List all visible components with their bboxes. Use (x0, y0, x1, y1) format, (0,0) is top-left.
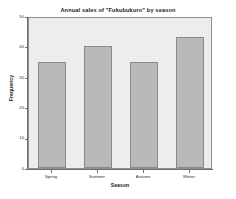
y-tick-mark (25, 169, 28, 170)
x-tick-mark (189, 170, 190, 173)
y-tick-label: 30 (19, 75, 24, 81)
y-tick: 10 (0, 139, 28, 140)
x-tick-mark (51, 170, 52, 173)
x-axis-title: Season (28, 182, 212, 188)
y-tick-label: 20 (19, 105, 24, 111)
x-tick-label: Winter (169, 174, 209, 179)
bar-autumn (130, 62, 159, 168)
plot-area (29, 18, 211, 168)
y-tick: 0 (0, 169, 28, 170)
y-tick-label: 0 (22, 166, 24, 172)
y-axis-line (27, 17, 28, 170)
x-tick-label: Autumn (123, 174, 163, 179)
y-tick-label: 50 (19, 14, 24, 20)
plot-panel (28, 17, 212, 169)
y-tick-mark (25, 139, 28, 140)
y-tick: 50 (0, 17, 28, 18)
y-tick-label: 10 (19, 135, 24, 141)
x-tick-mark (97, 170, 98, 173)
bar-summer (84, 46, 113, 168)
y-tick-mark (25, 17, 28, 18)
y-tick-mark (25, 108, 28, 109)
chart-title: Annual sales of "Fukubukuro" by season (0, 7, 236, 13)
x-tick-label: Spring (31, 174, 71, 179)
y-axis-title: Frequency (8, 43, 14, 133)
bar-winter (176, 37, 205, 168)
x-tick-label: Summer (77, 174, 117, 179)
bar-spring (38, 62, 67, 168)
x-axis-line (27, 169, 213, 170)
y-tick: 40 (0, 47, 28, 48)
y-tick-mark (25, 78, 28, 79)
bar-chart-figure: Annual sales of "Fukubukuro" by season 0… (0, 0, 236, 199)
x-tick-mark (143, 170, 144, 173)
y-tick: 30 (0, 78, 28, 79)
y-tick-mark (25, 47, 28, 48)
y-tick-label: 40 (19, 44, 24, 50)
y-tick: 20 (0, 108, 28, 109)
